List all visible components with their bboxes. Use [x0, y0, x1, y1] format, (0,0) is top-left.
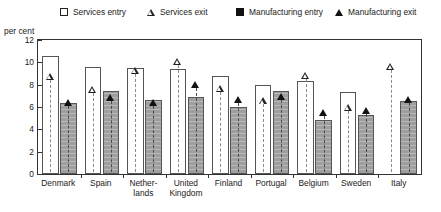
- dropline-manufacturing-exit: [111, 101, 112, 172]
- filled-triangle-icon: [404, 96, 412, 103]
- x-axis-label-line: Italy: [369, 178, 428, 188]
- open-triangle-icon: [147, 9, 155, 16]
- chart-group: [166, 40, 209, 174]
- dropline-services-exit: [306, 79, 307, 172]
- filled-triangle-icon: [362, 107, 370, 114]
- dropline-manufacturing-exit: [366, 114, 367, 172]
- legend-item-services-entry: Services entry: [60, 7, 126, 17]
- dropline-services-exit: [93, 93, 94, 172]
- open-triangle-icon: [259, 97, 267, 104]
- y-axis-tick-label: 12: [15, 36, 34, 44]
- dropline-services-exit: [391, 70, 392, 172]
- legend-label: Services entry: [73, 7, 126, 17]
- dropline-manufacturing-exit: [68, 106, 69, 172]
- legend-item-manufacturing-entry: Manufacturing entry: [236, 7, 323, 17]
- open-triangle-icon: [301, 72, 309, 79]
- filled-triangle-icon: [64, 99, 72, 106]
- filled-triangle-icon: [335, 9, 343, 16]
- filled-triangle-icon: [277, 93, 285, 100]
- x-axis-labels: DenmarkSpainNether-landsUnitedKingdomFin…: [37, 178, 422, 208]
- y-axis-tick-label: 2: [15, 148, 34, 156]
- y-axis-tick-label: 10: [15, 58, 34, 66]
- chart-group: [293, 40, 336, 174]
- dropline-services-exit: [178, 65, 179, 172]
- chart-group: [251, 40, 294, 174]
- plot-area: 024681012: [37, 39, 422, 175]
- chart-group: [336, 40, 379, 174]
- legend-label: Manufacturing exit: [348, 7, 416, 17]
- dropline-manufacturing-exit: [324, 116, 325, 172]
- filled-square-icon: [236, 8, 244, 16]
- dropline-services-exit: [220, 92, 221, 172]
- filled-triangle-icon: [191, 81, 199, 88]
- x-axis-label: Italy: [369, 178, 428, 188]
- open-triangle-icon: [131, 67, 139, 74]
- legend-label: Services exit: [160, 7, 207, 17]
- chart-group: [38, 40, 81, 174]
- x-axis-label-line: Kingdom: [157, 188, 216, 198]
- plot-inner: 024681012: [38, 40, 421, 174]
- y-axis-tick-label: 0: [15, 170, 34, 178]
- dropline-services-exit: [50, 80, 51, 172]
- dropline-manufacturing-exit: [281, 100, 282, 172]
- open-square-icon: [60, 8, 68, 16]
- open-triangle-icon: [88, 86, 96, 93]
- filled-triangle-icon: [106, 94, 114, 101]
- legend-item-services-exit: Services exit: [147, 7, 207, 17]
- dropline-manufacturing-exit: [238, 103, 239, 172]
- chart-legend: Services entry Services exit Manufacturi…: [0, 7, 441, 23]
- chart-group: [81, 40, 124, 174]
- dropline-manufacturing-exit: [153, 106, 154, 172]
- chart-group: [378, 40, 421, 174]
- dropline-manufacturing-exit: [196, 88, 197, 172]
- chart-group: [123, 40, 166, 174]
- open-triangle-icon: [46, 73, 54, 80]
- open-triangle-icon: [216, 85, 224, 92]
- filled-triangle-icon: [319, 109, 327, 116]
- chart-group: [208, 40, 251, 174]
- y-axis-tick-label: 6: [15, 103, 34, 111]
- open-triangle-icon: [344, 104, 352, 111]
- y-axis-tick-label: 8: [15, 81, 34, 89]
- filled-triangle-icon: [234, 96, 242, 103]
- legend-item-manufacturing-exit: Manufacturing exit: [335, 7, 416, 17]
- filled-triangle-icon: [149, 99, 157, 106]
- dropline-manufacturing-exit: [409, 103, 410, 172]
- dropline-services-exit: [263, 104, 264, 172]
- legend-label: Manufacturing entry: [249, 7, 323, 17]
- dropline-services-exit: [348, 111, 349, 172]
- open-triangle-icon: [386, 63, 394, 70]
- y-axis-tick-label: 4: [15, 125, 34, 133]
- chart-figure: Services entry Services exit Manufacturi…: [0, 0, 441, 212]
- dropline-services-exit: [135, 74, 136, 172]
- open-triangle-icon: [173, 58, 181, 65]
